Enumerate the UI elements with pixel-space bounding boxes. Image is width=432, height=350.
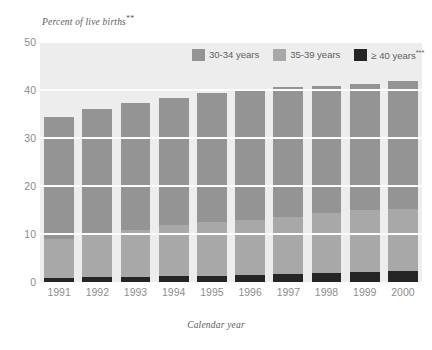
- stacked-bar[interactable]: [44, 117, 74, 282]
- legend-swatch-icon: [192, 49, 205, 61]
- x-axis-tick-label: 1993: [116, 286, 154, 304]
- x-axis-tick-label: 1994: [155, 286, 193, 304]
- bar-segment[interactable]: [44, 117, 74, 239]
- bar-segment[interactable]: [350, 272, 380, 282]
- x-axis-tick-label: 1997: [269, 286, 307, 304]
- bar-segment[interactable]: [159, 276, 189, 282]
- x-axis-tick-label: 1991: [40, 286, 78, 304]
- plot-area: [40, 42, 422, 282]
- x-axis-tick-label: 2000: [384, 286, 422, 304]
- bar-segment[interactable]: [235, 220, 265, 276]
- legend-label: 35-39 years: [290, 49, 340, 60]
- x-axis-tick-label: 1992: [78, 286, 116, 304]
- legend-item[interactable]: 30-34 years: [192, 49, 259, 61]
- stacked-bar[interactable]: [388, 81, 418, 282]
- bar-segment[interactable]: [82, 277, 112, 282]
- bar-segment[interactable]: [388, 271, 418, 282]
- bar-segment[interactable]: [197, 276, 227, 282]
- bar-slot: [78, 42, 116, 282]
- legend-item[interactable]: ≥ 40 years***: [354, 48, 424, 61]
- bar-segment[interactable]: [235, 89, 265, 220]
- bar-segment[interactable]: [388, 81, 418, 208]
- stacked-bar[interactable]: [235, 89, 265, 282]
- y-axis-tick-label: 40: [2, 84, 36, 96]
- bar-segment[interactable]: [121, 277, 151, 282]
- bar-slot: [269, 42, 307, 282]
- bar-segment[interactable]: [312, 213, 342, 273]
- x-axis-title: Calendar year: [0, 320, 432, 330]
- legend-swatch-icon: [273, 49, 286, 61]
- bar-segment[interactable]: [312, 273, 342, 282]
- stacked-bar[interactable]: [197, 93, 227, 282]
- legend-label-footnote: ***: [416, 48, 425, 57]
- bar-segment[interactable]: [82, 234, 112, 277]
- stacked-bar[interactable]: [350, 84, 380, 282]
- legend-item[interactable]: 35-39 years: [273, 49, 340, 61]
- bar-slot: [384, 42, 422, 282]
- stacked-bar[interactable]: [82, 109, 112, 282]
- bar-slot: [307, 42, 345, 282]
- x-axis-tick-label: 1995: [193, 286, 231, 304]
- bar-segment[interactable]: [197, 222, 227, 276]
- bar-segment[interactable]: [273, 274, 303, 282]
- y-axis-title: Percent of live births**: [42, 14, 134, 27]
- y-axis-tick-label: 30: [2, 132, 36, 144]
- bar-segment[interactable]: [350, 84, 380, 210]
- bar-segment[interactable]: [312, 86, 342, 214]
- y-axis-title-footnote: **: [126, 14, 134, 23]
- x-axis-tick-labels: 1991199219931994199519961997199819992000: [40, 286, 422, 304]
- y-axis-tick-label: 0: [2, 276, 36, 288]
- bar-slot: [116, 42, 154, 282]
- y-axis-title-text: Percent of live births: [42, 17, 126, 27]
- bar-segment[interactable]: [121, 103, 151, 229]
- bar-slot: [231, 42, 269, 282]
- bar-segment[interactable]: [388, 209, 418, 272]
- stacked-bar[interactable]: [159, 98, 189, 282]
- bar-segment[interactable]: [159, 98, 189, 225]
- stacked-bar[interactable]: [312, 86, 342, 282]
- chart-figure: Percent of live births** 01020304050 30-…: [0, 0, 432, 350]
- bar-slot: [346, 42, 384, 282]
- legend-label: ≥ 40 years***: [371, 48, 424, 61]
- y-axis-tick-labels: 01020304050: [0, 42, 36, 282]
- x-axis-tick-label: 1999: [346, 286, 384, 304]
- bar-segment[interactable]: [44, 239, 74, 277]
- bar-segment[interactable]: [273, 217, 303, 275]
- bar-slot: [155, 42, 193, 282]
- x-axis-tick-label: 1996: [231, 286, 269, 304]
- y-axis-tick-label: 20: [2, 180, 36, 192]
- bar-segment[interactable]: [350, 210, 380, 272]
- bar-segment[interactable]: [82, 109, 112, 235]
- bar-series-group: [40, 42, 422, 282]
- bar-segment[interactable]: [273, 87, 303, 217]
- bar-segment[interactable]: [197, 93, 227, 222]
- legend-swatch-icon: [354, 49, 367, 61]
- chart-legend: 30-34 years35-39 years≥ 40 years***: [192, 47, 424, 62]
- bar-slot: [193, 42, 231, 282]
- stacked-bar[interactable]: [121, 103, 151, 282]
- y-axis-tick-label: 50: [2, 36, 36, 48]
- x-axis-tick-label: 1998: [307, 286, 345, 304]
- bar-segment[interactable]: [44, 278, 74, 282]
- bar-segment[interactable]: [121, 230, 151, 277]
- legend-label: 30-34 years: [209, 49, 259, 60]
- bar-segment[interactable]: [159, 225, 189, 276]
- bar-slot: [40, 42, 78, 282]
- y-axis-tick-label: 10: [2, 228, 36, 240]
- stacked-bar[interactable]: [273, 87, 303, 282]
- bar-segment[interactable]: [235, 275, 265, 282]
